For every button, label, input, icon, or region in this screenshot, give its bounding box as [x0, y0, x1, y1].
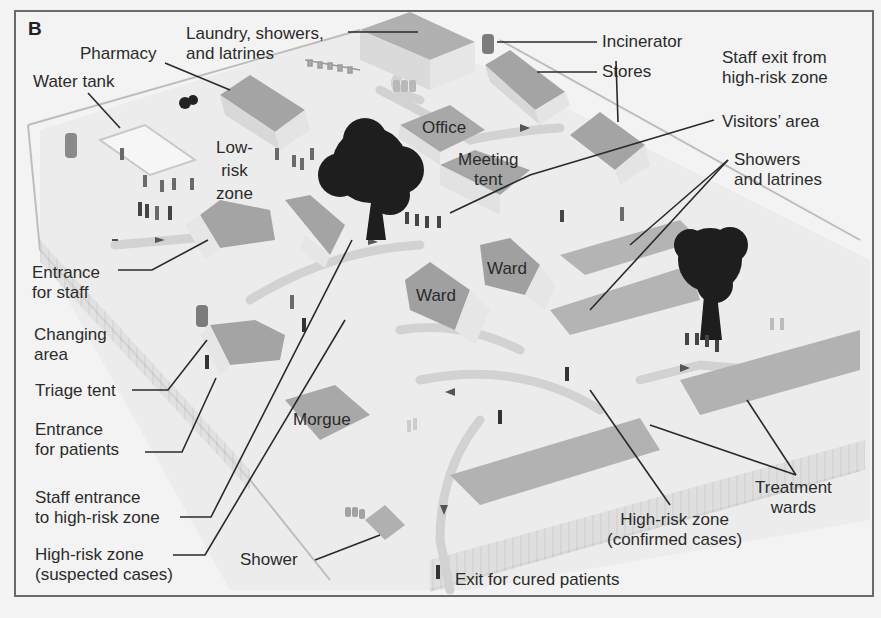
label-office: Office	[422, 118, 466, 138]
label-entrance-staff: Entrance for staff	[32, 263, 100, 303]
barrel-left	[65, 133, 77, 158]
label-stores: Stores	[602, 62, 651, 82]
label-staff-entrance-high-risk: Staff entrance to high-risk zone	[35, 488, 160, 528]
label-shower: Shower	[240, 550, 298, 570]
label-treatment-wards: Treatment wards	[755, 478, 832, 518]
label-showers-latrines: Showers and latrines	[734, 150, 822, 190]
label-water-tank: Water tank	[33, 72, 115, 92]
label-triage-tent: Triage tent	[35, 381, 116, 401]
label-visitors-area: Visitors’ area	[722, 112, 819, 132]
incinerator	[482, 34, 494, 54]
label-morgue: Morgue	[293, 410, 351, 430]
barrel-triage	[196, 305, 208, 327]
label-laundry: Laundry, showers, and latrines	[186, 24, 324, 64]
label-changing-area: Changing area	[34, 325, 107, 365]
label-pharmacy: Pharmacy	[80, 44, 157, 64]
barrels-laundry	[393, 80, 416, 92]
label-ward-left: Ward	[416, 286, 456, 306]
label-ward-right: Ward	[487, 259, 527, 279]
label-high-risk-confirmed: High-risk zone (confirmed cases)	[607, 510, 742, 550]
label-incinerator: Incinerator	[602, 32, 682, 52]
panel-label: B	[28, 18, 42, 40]
label-low-risk-zone: Low- risk zone	[216, 136, 253, 205]
label-staff-exit: Staff exit from high-risk zone	[722, 48, 828, 88]
label-high-risk-suspected: High-risk zone (suspected cases)	[35, 545, 173, 585]
label-meeting-tent: Meeting tent	[458, 150, 518, 190]
label-entrance-patients: Entrance for patients	[35, 420, 119, 460]
label-exit-cured: Exit for cured patients	[455, 570, 619, 590]
